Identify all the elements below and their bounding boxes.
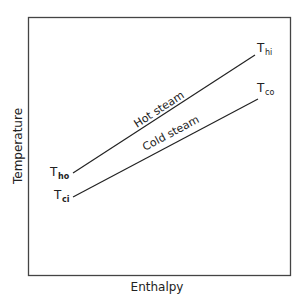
svg-text:T: T bbox=[256, 41, 265, 55]
t-ho-label: T ho bbox=[49, 165, 70, 181]
temperature-enthalpy-diagram: Hot steam Cold steam T ho T ci T hi T co… bbox=[0, 0, 303, 305]
x-axis-label: Enthalpy bbox=[131, 280, 184, 294]
t-ci-label: T ci bbox=[53, 188, 70, 204]
t-hi-label: T hi bbox=[256, 41, 272, 57]
svg-text:ho: ho bbox=[58, 172, 70, 181]
svg-text:co: co bbox=[265, 88, 274, 97]
svg-text:T: T bbox=[49, 165, 58, 179]
t-co-label: T co bbox=[256, 81, 274, 97]
svg-text:T: T bbox=[53, 188, 62, 202]
svg-text:hi: hi bbox=[265, 48, 272, 57]
svg-text:T: T bbox=[256, 81, 265, 95]
svg-text:ci: ci bbox=[62, 195, 70, 204]
y-axis-label: Temperature bbox=[11, 108, 25, 185]
